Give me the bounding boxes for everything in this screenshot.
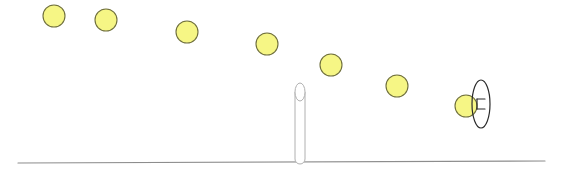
- ball-3: [176, 21, 198, 43]
- post-shaft: [295, 92, 305, 164]
- post-group: [295, 83, 305, 164]
- post-cap-ellipse: [295, 83, 305, 101]
- ball-5: [320, 54, 342, 76]
- ground-group: [18, 161, 545, 163]
- ball-7: [455, 95, 477, 117]
- ball-2: [95, 9, 117, 31]
- ball-series-group: [43, 5, 477, 117]
- ball-1: [43, 5, 65, 27]
- diagram-svg: [0, 0, 561, 179]
- trajectory-diagram-canvas: [0, 0, 561, 179]
- ground-line: [18, 161, 545, 163]
- ball-6: [386, 75, 408, 97]
- ball-4: [256, 33, 278, 55]
